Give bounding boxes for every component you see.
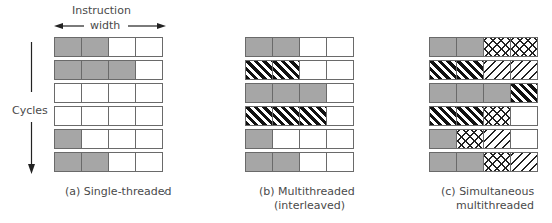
issue-slot <box>457 107 484 125</box>
cycle-row <box>54 152 163 172</box>
issue-slot <box>457 153 484 171</box>
issue-slot <box>136 84 162 102</box>
cycle-row <box>54 129 163 149</box>
issue-slot <box>82 153 109 171</box>
issue-slot <box>55 130 82 148</box>
instruction-width-arrows-icon <box>54 20 166 32</box>
issue-slot <box>327 107 353 125</box>
issue-slot <box>246 84 273 102</box>
cycle-row <box>429 129 538 149</box>
issue-slot <box>109 84 136 102</box>
issue-slot <box>511 107 537 125</box>
issue-slot <box>273 153 300 171</box>
issue-slot <box>55 61 82 79</box>
issue-slot <box>484 130 511 148</box>
issue-slot <box>273 107 300 125</box>
issue-slot <box>273 38 300 56</box>
issue-slot <box>300 107 327 125</box>
issue-slot <box>246 107 273 125</box>
issue-slot <box>457 84 484 102</box>
instruction-label: Instruction <box>72 4 131 17</box>
issue-slot <box>273 61 300 79</box>
issue-slot <box>109 61 136 79</box>
issue-slot <box>457 61 484 79</box>
panel-a-caption: (a) Single-threaded <box>65 185 171 198</box>
cycle-row <box>429 106 538 126</box>
issue-slot <box>82 84 109 102</box>
cycle-row <box>245 152 354 172</box>
issue-slot <box>82 107 109 125</box>
cycle-row <box>245 129 354 149</box>
cycle-row <box>245 60 354 80</box>
issue-slot <box>300 61 327 79</box>
issue-slot <box>300 153 327 171</box>
issue-slot <box>484 84 511 102</box>
issue-slot <box>246 153 273 171</box>
issue-slot <box>136 107 162 125</box>
issue-slot <box>430 38 457 56</box>
issue-slot <box>82 130 109 148</box>
cycle-row <box>54 83 163 103</box>
issue-slot <box>82 38 109 56</box>
issue-slot <box>300 130 327 148</box>
cycle-row <box>429 37 538 57</box>
issue-slot <box>430 61 457 79</box>
issue-slot <box>136 61 162 79</box>
issue-slot <box>55 84 82 102</box>
panel-c-grid <box>429 37 538 175</box>
issue-slot <box>511 84 537 102</box>
issue-slot <box>511 130 537 148</box>
issue-slot <box>273 84 300 102</box>
issue-slot <box>430 84 457 102</box>
issue-slot <box>55 107 82 125</box>
cycle-row <box>429 60 538 80</box>
issue-slot <box>457 38 484 56</box>
cycle-row <box>54 106 163 126</box>
issue-slot <box>300 38 327 56</box>
cycle-row <box>429 83 538 103</box>
issue-slot <box>484 107 511 125</box>
issue-slot <box>136 130 162 148</box>
issue-slot <box>327 84 353 102</box>
cycles-label: Cycles <box>12 104 48 117</box>
panel-c-caption-line1: (c) Simultaneous <box>441 185 534 198</box>
cycle-row <box>54 60 163 80</box>
issue-slot <box>109 153 136 171</box>
issue-slot <box>246 61 273 79</box>
issue-slot <box>273 130 300 148</box>
issue-slot <box>511 38 537 56</box>
issue-slot <box>136 38 162 56</box>
issue-slot <box>109 38 136 56</box>
panel-c-caption-line2: multithreaded <box>456 199 534 212</box>
issue-slot <box>82 61 109 79</box>
stray-dot <box>164 192 166 194</box>
issue-slot <box>430 130 457 148</box>
issue-slot <box>136 153 162 171</box>
issue-slot <box>430 107 457 125</box>
issue-slot <box>457 130 484 148</box>
issue-slot <box>109 107 136 125</box>
issue-slot <box>327 38 353 56</box>
issue-slot <box>300 84 327 102</box>
cycle-row <box>245 83 354 103</box>
issue-slot <box>511 153 537 171</box>
panel-b-caption-line1: (b) Multithreaded <box>259 185 355 198</box>
issue-slot <box>246 38 273 56</box>
cycle-row <box>245 37 354 57</box>
issue-slot <box>55 153 82 171</box>
issue-slot <box>109 130 136 148</box>
issue-slot <box>327 153 353 171</box>
issue-slot <box>484 38 511 56</box>
cycle-row <box>245 106 354 126</box>
issue-slot <box>484 153 511 171</box>
issue-slot <box>246 130 273 148</box>
cycle-row <box>54 37 163 57</box>
panel-a-grid <box>54 37 163 175</box>
issue-slot <box>511 61 537 79</box>
issue-slot <box>430 153 457 171</box>
panel-b-caption-line2: (interleaved) <box>274 199 345 212</box>
cycle-row <box>429 152 538 172</box>
issue-slot <box>55 38 82 56</box>
issue-slot <box>484 61 511 79</box>
panel-b-grid <box>245 37 354 175</box>
